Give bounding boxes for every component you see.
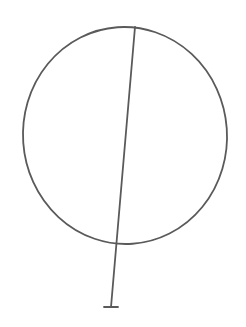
drawing-canvas	[0, 0, 246, 327]
stick-line	[111, 27, 135, 307]
sketch-svg	[0, 0, 246, 327]
